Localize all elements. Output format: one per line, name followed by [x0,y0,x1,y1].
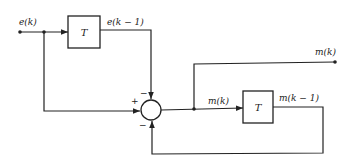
sign-minus-top: − [140,88,148,98]
delay-block-bottom: T [243,91,273,123]
sign-minus-bottom: − [139,120,147,130]
sign-plus-left: + [131,96,139,106]
feedback-wire [152,107,323,154]
delayed-output-label: m(k − 1) [279,93,319,103]
output-terminal-dot [333,60,337,64]
sum-output-wire [161,108,243,110]
summing-junction [141,100,161,120]
feedback-signal-label: m(k) [208,96,229,106]
block-diagram: e(k) T e(k − 1) + − − m(k) m(k) T m(k − … [0,0,348,167]
input-label: e(k) [19,17,37,27]
delayed-input-label: e(k − 1) [107,17,144,27]
output-label: m(k) [315,47,336,57]
delay-block-top: T [68,16,100,48]
